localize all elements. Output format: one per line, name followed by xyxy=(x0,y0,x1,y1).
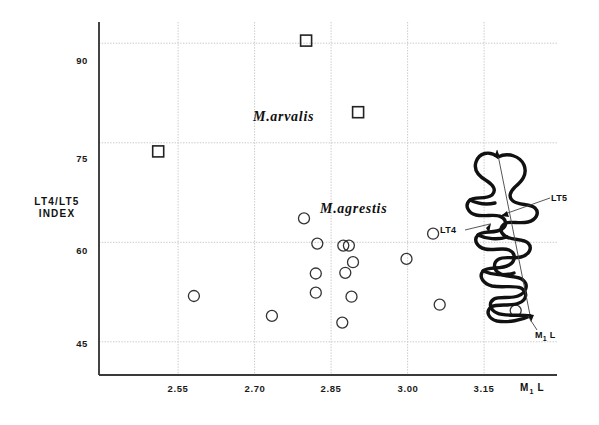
data-point-1-9 xyxy=(340,267,351,278)
data-point-1-0 xyxy=(299,213,310,224)
x-tick-label-2-70: 2.70 xyxy=(225,383,285,394)
x-tick-label-3-15: 3.15 xyxy=(454,383,514,394)
x-tick-label-3-00: 3.00 xyxy=(378,383,438,394)
lt5-leader-line xyxy=(502,198,550,215)
data-point-1-11 xyxy=(337,317,348,328)
data-point-1-4 xyxy=(310,268,321,279)
x-axis-title-tail: L xyxy=(537,382,544,393)
data-point-1-14 xyxy=(434,299,445,310)
data-point-0-2 xyxy=(153,146,164,157)
data-point-1-10 xyxy=(346,291,357,302)
y-tick-label-45: 45 xyxy=(44,338,88,349)
x-tick-label-2-85: 2.85 xyxy=(301,383,361,394)
lt4-leader-line xyxy=(465,224,490,230)
series-m-arvalis xyxy=(153,35,364,157)
lt5-arrow xyxy=(501,211,509,217)
tooth-label-lt4: LT4 xyxy=(440,225,456,235)
y-axis-title: LT4/LT5 INDEX xyxy=(18,196,96,220)
scatter-plot-figure: 90 75 60 45 2.55 2.70 2.85 3.00 3.15 LT4… xyxy=(0,0,599,425)
tooth-label-m1l: M1 L xyxy=(535,330,556,342)
y-tick-label-60: 60 xyxy=(44,245,88,256)
data-point-1-2 xyxy=(188,291,199,302)
data-point-1-5 xyxy=(310,287,321,298)
data-point-0-0 xyxy=(301,35,312,46)
series-m-agrestis xyxy=(188,213,521,328)
data-point-1-8 xyxy=(348,257,359,268)
x-axis-title-main: M xyxy=(520,382,530,393)
y-axis-title-line1: LT4/LT5 xyxy=(18,196,96,208)
y-tick-label-75: 75 xyxy=(44,153,88,164)
tooth-label-m1l-tail: L xyxy=(550,330,556,340)
y-tick-label-90: 90 xyxy=(44,55,88,66)
data-point-1-3 xyxy=(266,310,277,321)
data-point-1-13 xyxy=(401,253,412,264)
data-point-0-1 xyxy=(353,107,364,118)
annotation-m-arvalis: M.arvalis xyxy=(253,109,314,125)
tooth-label-m1l-sub: 1 xyxy=(543,335,547,342)
tooth-label-lt5: LT5 xyxy=(551,193,567,203)
data-point-1-12 xyxy=(428,228,439,239)
tooth-callout-lines xyxy=(465,150,550,330)
annotation-m-agrestis: M.agrestis xyxy=(320,201,387,217)
y-axis-title-line2: INDEX xyxy=(18,208,96,220)
data-point-1-1 xyxy=(312,238,323,249)
tooth-label-m1l-main: M xyxy=(535,330,543,340)
data-markers xyxy=(153,35,522,328)
x-tick-label-2-55: 2.55 xyxy=(148,383,208,394)
x-axis-title: M1 L xyxy=(520,382,590,398)
